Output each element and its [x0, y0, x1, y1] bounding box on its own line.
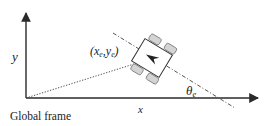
x-label-text: x	[138, 103, 143, 115]
y-label-text: y	[12, 49, 18, 64]
robot-icon	[127, 32, 177, 85]
x-axis-label: x	[138, 104, 143, 115]
position-vector-line	[26, 59, 150, 98]
frame-label-text: Global frame	[10, 110, 71, 122]
global-frame-label: Global frame	[10, 111, 71, 123]
paren-close: )	[115, 44, 119, 58]
heading-angle-label: θe	[186, 84, 196, 99]
theta-sub: e	[192, 89, 196, 99]
diagram-canvas	[0, 0, 269, 126]
y-axis-label: y	[12, 50, 18, 63]
robot-position-label: (xe,ye)	[90, 45, 119, 59]
